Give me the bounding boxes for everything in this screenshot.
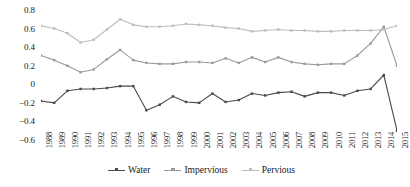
- chart-legend: Water Impervious Pervious: [0, 165, 403, 175]
- data-point: [317, 30, 319, 32]
- data-point: [211, 25, 213, 27]
- x-axis-tick: 2009: [321, 132, 330, 148]
- data-point: [277, 56, 279, 58]
- data-point: [185, 23, 187, 25]
- x-axis-tick: 1988: [45, 132, 54, 148]
- data-point: [145, 109, 147, 111]
- data-point: [41, 25, 42, 27]
- data-point: [224, 26, 226, 28]
- data-point: [93, 39, 95, 41]
- x-axis-tick: 2012: [361, 132, 370, 148]
- data-point: [304, 63, 306, 65]
- x-axis-tick: 1991: [84, 132, 93, 148]
- legend-item-impervious[interactable]: Impervious: [164, 165, 227, 175]
- series-layer: [41, 10, 397, 140]
- data-point: [211, 62, 213, 64]
- data-point: [41, 54, 42, 56]
- legend-label-impervious: Impervious: [184, 165, 227, 175]
- y-axis-tick: 0.2: [24, 61, 35, 70]
- data-point: [330, 91, 332, 93]
- data-point: [396, 25, 397, 27]
- data-point: [304, 95, 306, 97]
- y-axis-tick: −0.4: [19, 117, 35, 126]
- x-axis-tick: 2005: [269, 132, 278, 148]
- data-point: [106, 58, 108, 60]
- x-axis-tick: 1992: [97, 132, 106, 148]
- data-point: [369, 29, 371, 31]
- x-axis-tick: 1994: [124, 132, 133, 148]
- x-axis-tick: 2002: [229, 132, 238, 148]
- legend-label-water: Water: [128, 165, 150, 175]
- x-axis-tick: 2010: [335, 132, 344, 148]
- data-point: [383, 74, 385, 76]
- data-point: [304, 29, 306, 31]
- data-point: [66, 90, 68, 92]
- data-point: [79, 88, 81, 90]
- x-axis-tick: 2008: [308, 132, 317, 148]
- data-point: [198, 61, 200, 63]
- data-point: [132, 85, 134, 87]
- data-point: [290, 61, 292, 63]
- data-point: [396, 65, 397, 67]
- data-point: [172, 25, 174, 27]
- data-point: [343, 94, 345, 96]
- data-point: [251, 92, 253, 94]
- data-point: [251, 30, 253, 32]
- x-axis: 1988198919901991199219931994199519961997…: [41, 132, 397, 162]
- data-point: [53, 59, 55, 61]
- data-point: [317, 91, 319, 93]
- y-axis-tick: 0.6: [24, 24, 35, 33]
- x-axis-tick: 2011: [348, 132, 357, 148]
- y-axis: 0.80.60.40.20−0.2−0.4−0.6: [0, 10, 38, 140]
- data-point: [93, 68, 95, 70]
- data-point: [66, 32, 68, 34]
- x-axis-tick: 1997: [163, 132, 172, 148]
- data-point: [132, 59, 134, 61]
- data-point: [383, 26, 385, 28]
- data-point: [264, 94, 266, 96]
- x-axis-tick: 2003: [242, 132, 251, 148]
- y-axis-tick: 0: [31, 80, 35, 89]
- data-point: [185, 101, 187, 103]
- data-point: [277, 28, 279, 30]
- data-point: [198, 102, 200, 104]
- legend-item-pervious[interactable]: Pervious: [242, 165, 295, 175]
- data-point: [53, 102, 55, 104]
- legend-label-pervious: Pervious: [262, 165, 295, 175]
- plot-area: [41, 10, 397, 140]
- data-point: [290, 91, 292, 93]
- data-point: [172, 95, 174, 97]
- data-point: [238, 27, 240, 29]
- data-point: [343, 63, 345, 65]
- data-point: [343, 29, 345, 31]
- data-point: [317, 64, 319, 66]
- data-point: [277, 91, 279, 93]
- data-point: [264, 61, 266, 63]
- data-point: [185, 61, 187, 63]
- data-point: [356, 54, 358, 56]
- data-point: [369, 88, 371, 90]
- data-point: [224, 101, 226, 103]
- legend-marker-impervious: [164, 166, 181, 174]
- x-axis-tick: 1993: [110, 132, 119, 148]
- series-impervious: [41, 26, 397, 74]
- data-point: [198, 24, 200, 26]
- data-point: [106, 87, 108, 89]
- data-point: [238, 99, 240, 101]
- x-axis-tick: 1995: [137, 132, 146, 148]
- series-pervious: [41, 18, 397, 44]
- data-point: [356, 90, 358, 92]
- x-axis-tick: 2007: [295, 132, 304, 148]
- data-point: [93, 88, 95, 90]
- x-axis-tick: 2014: [387, 132, 396, 148]
- x-axis-tick: 1998: [176, 132, 185, 148]
- x-axis-tick: 2015: [401, 132, 410, 148]
- y-axis-tick: −0.2: [19, 98, 35, 107]
- data-point: [53, 27, 55, 29]
- data-point: [119, 85, 121, 87]
- series-water: [41, 74, 397, 132]
- data-point: [79, 71, 81, 73]
- legend-item-water[interactable]: Water: [108, 165, 150, 175]
- data-point: [119, 18, 121, 20]
- x-axis-tick: 1989: [58, 132, 67, 148]
